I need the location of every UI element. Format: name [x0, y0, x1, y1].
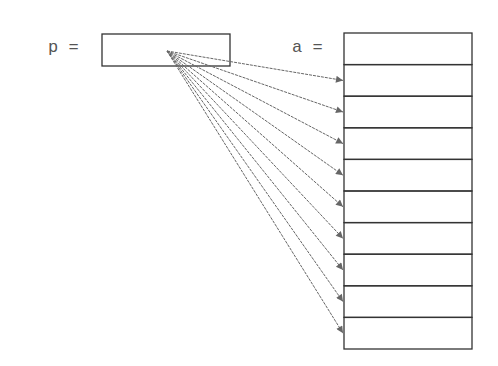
- array-cell: [344, 159, 472, 191]
- array-cell: [344, 65, 472, 97]
- array-cell: [344, 96, 472, 128]
- pointer-arrow: [167, 51, 343, 175]
- array-cell: [344, 223, 472, 255]
- pointer-array-diagram: [0, 0, 498, 366]
- array-cell: [344, 286, 472, 318]
- pointer-arrow: [167, 51, 343, 144]
- pointer-arrow: [167, 51, 343, 238]
- pointer-arrow: [167, 51, 343, 207]
- array-cell: [344, 254, 472, 286]
- pointer-arrow: [167, 51, 343, 112]
- pointer-arrow: [167, 51, 343, 333]
- pointer-box: [102, 34, 230, 66]
- array-cell: [344, 33, 472, 65]
- array-cell: [344, 191, 472, 223]
- array-cell: [344, 317, 472, 349]
- pointer-arrow: [167, 51, 343, 270]
- array-cell: [344, 128, 472, 160]
- pointer-arrow: [167, 51, 343, 302]
